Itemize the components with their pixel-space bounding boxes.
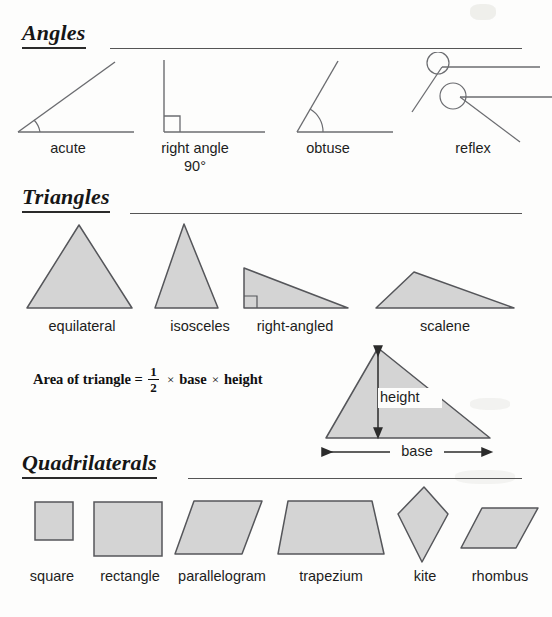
formula-times-1: × (167, 372, 174, 388)
figure-right-angled-triangle (235, 222, 355, 312)
section-rule-quadrilaterals (188, 478, 522, 479)
figure-scalene-triangle (370, 222, 520, 312)
section-heading-angles: Angles (22, 22, 86, 49)
figure-label-reflex: reflex (433, 140, 513, 158)
figure-label-square: square (12, 568, 92, 586)
label-text-rhombus: rhombus (472, 568, 528, 584)
figure-label-rhombus: rhombus (457, 568, 543, 586)
formula-times-2: × (212, 372, 219, 388)
figure-obtuse-angle (275, 58, 405, 138)
figure-label-rectangle: rectangle (87, 568, 173, 586)
label-text-right-angle: right angle (161, 140, 229, 156)
geometry-reference-page: Angles acute right angle 90° obtuse (0, 0, 552, 617)
formula-base-word: base (179, 371, 206, 388)
section-rule-angles (110, 48, 522, 49)
label-text-right-angled: right-angled (257, 318, 334, 334)
figure-kite (392, 484, 458, 566)
figure-label-scalene: scalene (370, 318, 520, 336)
figure-label-obtuse: obtuse (288, 140, 368, 158)
section-rule-triangles (130, 213, 522, 214)
label-text-equilateral: equilateral (49, 318, 116, 334)
figure-label-kite: kite (397, 568, 453, 586)
figure-square (30, 498, 90, 562)
figure-acute-angle (12, 58, 142, 138)
figure-reflex-angle (400, 52, 552, 144)
formula-numerator: 1 (148, 365, 159, 379)
label-text-square: square (30, 568, 74, 584)
label-text-kite: kite (414, 568, 437, 584)
formula-lead: Area of triangle = (33, 371, 143, 388)
formula-fraction-one-half: 1 2 (148, 365, 159, 394)
label-text-scalene: scalene (420, 318, 470, 334)
formula-height-word: height (224, 371, 263, 388)
label-text-trapezium: trapezium (299, 568, 363, 584)
figure-equilateral-triangle (22, 222, 142, 312)
label-text-height: height (380, 389, 420, 405)
label-text-right-angle-degrees: 90° (184, 158, 206, 174)
figure-right-angle (155, 58, 275, 138)
section-heading-quadrilaterals: Quadrilaterals (22, 452, 157, 479)
section-title-triangles: Triangles (22, 186, 110, 213)
label-text-obtuse: obtuse (306, 140, 350, 156)
area-of-triangle-formula: Area of triangle = 1 2 × base × height (32, 365, 264, 394)
dimension-label-height: height (378, 388, 442, 408)
figure-label-right-angled: right-angled (235, 318, 355, 336)
section-title-quadrilaterals: Quadrilaterals (22, 452, 157, 479)
figure-label-right-angle: right angle 90° (130, 140, 260, 175)
figure-rhombus (458, 498, 544, 560)
figure-label-acute: acute (28, 140, 108, 158)
label-text-parallelogram: parallelogram (178, 568, 266, 584)
scan-artifact (470, 4, 496, 20)
label-text-reflex: reflex (455, 140, 490, 156)
scan-artifact (455, 470, 515, 484)
formula-denominator: 2 (148, 380, 159, 394)
figure-label-equilateral: equilateral (22, 318, 142, 336)
section-title-angles: Angles (22, 22, 86, 49)
figure-label-parallelogram: parallelogram (167, 568, 277, 586)
label-text-base: base (401, 443, 432, 459)
figure-trapezium (276, 496, 386, 562)
section-heading-triangles: Triangles (22, 186, 110, 213)
dimension-label-base: base (390, 443, 444, 461)
label-text-acute: acute (50, 140, 85, 156)
figure-label-trapezium: trapezium (283, 568, 379, 586)
figure-parallelogram (172, 496, 268, 562)
label-text-isosceles: isosceles (170, 318, 230, 334)
label-text-rectangle: rectangle (100, 568, 160, 584)
figure-rectangle (90, 498, 170, 562)
